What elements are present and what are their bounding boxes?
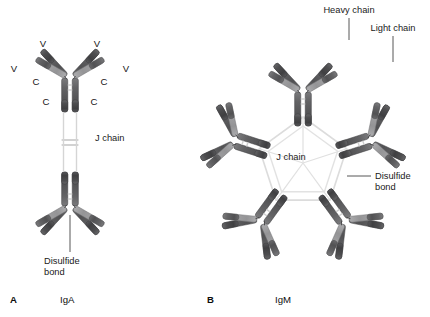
label-v-outer-right: V <box>123 63 130 74</box>
label-v-inner-left: V <box>40 38 47 49</box>
panel-title-iga: IgA <box>60 294 75 305</box>
label-igm-disulfide-line1: Disulfide <box>375 171 411 181</box>
figure-canvas: V V V V C C C C J chain Disulfide bond A… <box>0 0 430 317</box>
label-v-outer-left: V <box>11 63 18 74</box>
label-c-light-right: C <box>101 76 108 87</box>
label-igm-disulfide-line2: bond <box>375 182 396 192</box>
label-v-inner-right: V <box>94 38 101 49</box>
label-light-chain: Light chain <box>371 23 416 33</box>
panel-title-igm: IgM <box>275 294 291 305</box>
panel-letter-a: A <box>10 294 17 305</box>
label-heavy-chain: Heavy chain <box>323 5 374 15</box>
label-iga-j-chain: J chain <box>95 133 124 143</box>
label-iga-disulfide-line1: Disulfide <box>44 256 80 266</box>
label-c-light-left: C <box>33 76 40 87</box>
antibody-structure-diagram: V V V V C C C C J chain Disulfide bond A… <box>0 0 430 317</box>
label-c-heavy-right: C <box>91 96 98 107</box>
label-igm-j-chain: J chain <box>276 152 305 162</box>
label-c-heavy-left: C <box>43 96 50 107</box>
panel-letter-b: B <box>207 294 214 305</box>
label-iga-disulfide-line2: bond <box>44 267 65 277</box>
